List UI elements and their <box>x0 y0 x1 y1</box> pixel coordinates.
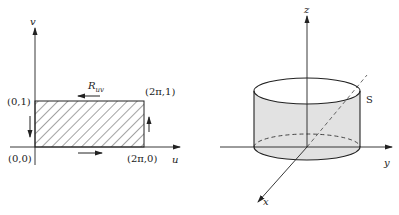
corner-top-right: (2π,1) <box>145 86 175 97</box>
uv-plane: v u Ruv (0,1) (2π,1) (0,0) (2π,0) <box>7 16 180 165</box>
surface-label: S <box>366 94 373 105</box>
region-ruv <box>35 101 144 147</box>
y-axis-label: y <box>383 157 390 168</box>
figure: v u Ruv (0,1) (2π,1) (0,0) (2π,0) z y x … <box>0 0 399 215</box>
corner-top-left: (0,1) <box>7 96 31 107</box>
xyz-space: z y x S <box>220 4 392 207</box>
u-axis-label: u <box>172 154 178 165</box>
corner-origin: (0,0) <box>8 153 32 164</box>
corner-bottom-right: (2π,0) <box>127 153 157 164</box>
z-axis-label: z <box>303 4 310 15</box>
x-axis-label: x <box>263 196 269 207</box>
v-axis-label: v <box>30 16 36 27</box>
region-label: Ruv <box>87 80 104 94</box>
